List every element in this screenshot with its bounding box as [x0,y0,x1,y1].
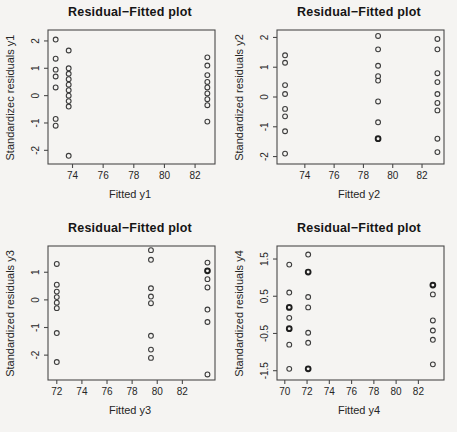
svg-text:0: 0 [30,297,41,303]
svg-text:78: 78 [127,386,139,397]
svg-text:0.5: 0.5 [259,289,270,303]
svg-text:1: 1 [30,65,41,71]
svg-text:82: 82 [190,170,202,181]
svg-text:78: 78 [358,170,370,181]
plot-canvas-y3: 727476788082-2-101 [0,216,228,432]
svg-text:2: 2 [30,38,41,44]
plot-panel-y4: Residual−Fitted plot Standardized residu… [229,216,457,432]
plot-canvas-y2: 7476788082-2-1012 [229,0,457,216]
svg-text:74: 74 [76,386,88,397]
plot-canvas-y4: 70727476788082-1.5-0.50.51.5 [229,216,457,432]
x-axis-label: Fitted y2 [263,188,455,200]
plot-panel-y3: Residual−Fitted plot Standardized residu… [0,216,228,432]
svg-text:-1: -1 [30,323,41,332]
svg-text:80: 80 [152,386,164,397]
svg-text:-2: -2 [30,350,41,359]
svg-text:76: 76 [98,170,110,181]
svg-text:72: 72 [51,386,63,397]
svg-text:82: 82 [177,386,189,397]
svg-text:82: 82 [413,386,425,397]
svg-text:-1.5: -1.5 [259,362,270,380]
svg-text:72: 72 [301,386,313,397]
svg-text:-1: -1 [30,118,41,127]
svg-text:80: 80 [387,170,399,181]
svg-text:1.5: 1.5 [259,252,270,266]
svg-text:-2: -2 [259,152,270,161]
svg-text:2: 2 [259,34,270,40]
svg-text:76: 76 [329,170,341,181]
svg-text:70: 70 [279,386,291,397]
svg-text:74: 74 [324,386,336,397]
svg-text:76: 76 [346,386,358,397]
svg-text:0: 0 [259,94,270,100]
svg-text:74: 74 [299,170,311,181]
svg-text:-1: -1 [259,122,270,131]
svg-text:1: 1 [259,64,270,70]
svg-text:82: 82 [416,170,428,181]
residual-plots-page: { "page": { "background": "#f5f4f2", "ax… [0,0,457,432]
svg-text:0: 0 [30,92,41,98]
svg-text:78: 78 [368,386,380,397]
plot-panel-y2: Residual−Fitted plot Standardized residu… [229,0,457,216]
svg-text:78: 78 [128,170,140,181]
svg-text:-2: -2 [30,145,41,154]
svg-text:80: 80 [159,170,171,181]
svg-text:1: 1 [30,269,41,275]
svg-text:80: 80 [391,386,403,397]
x-axis-label: Fitted y4 [263,404,455,416]
svg-text:76: 76 [101,386,113,397]
plot-panel-y1: Residual−Fitted plot Standardizec residu… [0,0,228,216]
svg-text:74: 74 [67,170,79,181]
x-axis-label: Fitted y3 [34,404,226,416]
svg-text:-0.5: -0.5 [259,324,270,342]
plot-canvas-y1: 7476788082-2-1012 [0,0,228,216]
x-axis-label: Fitted y1 [34,188,226,200]
